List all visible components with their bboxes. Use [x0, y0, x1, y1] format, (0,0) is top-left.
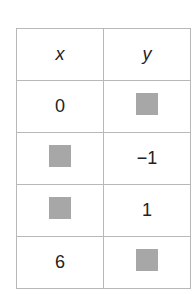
blank-placeholder [49, 197, 71, 219]
cell-y: −1 [104, 133, 191, 185]
header-x: x [17, 29, 104, 81]
xy-value-table: x y 0 −1 1 6 [16, 28, 191, 289]
table-row: −1 [17, 133, 191, 185]
cell-x: 6 [17, 237, 104, 289]
cell-y [104, 237, 191, 289]
cell-y: 1 [104, 185, 191, 237]
blank-placeholder [49, 145, 71, 167]
header-row: x y [17, 29, 191, 81]
table-row: 1 [17, 185, 191, 237]
table-row: 0 [17, 81, 191, 133]
cell-x: 0 [17, 81, 104, 133]
header-y: y [104, 29, 191, 81]
cell-x [17, 133, 104, 185]
cell-x [17, 185, 104, 237]
table-row: 6 [17, 237, 191, 289]
blank-placeholder [136, 93, 158, 115]
blank-placeholder [136, 249, 158, 271]
cell-y [104, 81, 191, 133]
